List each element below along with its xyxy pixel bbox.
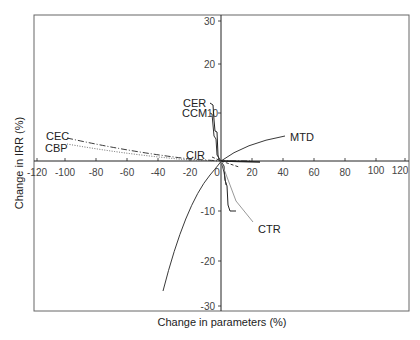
y-tick-label: 20 [204, 59, 216, 70]
irr-sensitivity-chart: -120 -100 -80 -60 -40 -20 0 20 40 60 80 … [0, 0, 420, 340]
x-tick-label: -80 [89, 167, 104, 178]
label-cec: CEC [46, 130, 69, 142]
x-tick-label: 20 [246, 167, 258, 178]
y-axis-title: Change in IRR (%) [13, 117, 25, 209]
label-cir: CIR [186, 149, 205, 161]
label-ctr: CTR [258, 223, 281, 235]
y-tick-label: 30 [204, 16, 216, 27]
y-tick-label: -10 [201, 206, 216, 217]
x-axis-title: Change in parameters (%) [157, 316, 286, 328]
series-tail [221, 161, 260, 162]
y-tick-label: -30 [201, 301, 216, 312]
label-mtd: MTD [290, 131, 314, 143]
series-cec [67, 138, 252, 161]
x-tick-label: 40 [277, 167, 289, 178]
x-tick-label: 120 [392, 165, 409, 176]
y-tick-label: -20 [201, 256, 216, 267]
label-ccm: CCM [182, 107, 207, 119]
x-tick-label: -60 [120, 167, 135, 178]
label-cbp: CBP [45, 142, 68, 154]
y-tick-labels: 30 20 10 -10 -20 -30 [201, 16, 219, 312]
x-tick-label: 60 [308, 167, 320, 178]
x-tick-label: 80 [339, 167, 351, 178]
series-cer [210, 103, 236, 211]
x-tick-label: -120 [27, 167, 47, 178]
x-tick-labels: -120 -100 -80 -60 -40 -20 0 20 40 60 80 … [27, 165, 409, 178]
x-tick-label: -40 [151, 167, 166, 178]
x-tick-label: -20 [183, 167, 198, 178]
x-tick-label: -100 [55, 167, 75, 178]
x-tick-label: 100 [368, 165, 385, 176]
